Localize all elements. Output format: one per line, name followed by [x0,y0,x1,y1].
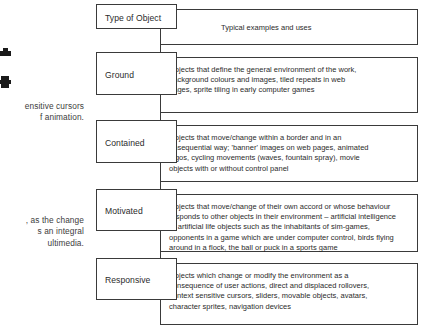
description-text-responsive: Objects which change or modify the envir… [169,271,369,312]
type-label-ground: Ground [105,70,134,80]
description-text-contained: Objects that move/change within a border… [169,133,369,174]
header-description-label: Typical examples and uses [221,23,312,33]
description-box-contained: Objects that move/change within a border… [160,125,418,182]
description-text-motivated: Objects that move/change of their own ac… [169,202,396,253]
type-box-responsive: Responsive [96,258,177,300]
object-type-table: Type of Object Typical examples and uses… [0,0,428,336]
description-box-motivated: Objects that move/change of their own ac… [160,194,418,252]
description-text-ground: Objects that define the general environm… [169,65,356,96]
type-label-responsive: Responsive [105,275,150,285]
description-box-ground: Objects that define the general environm… [160,57,418,113]
type-box-motivated: Motivated [96,189,177,231]
type-box-contained: Contained [96,120,177,163]
type-box-ground: Ground [96,52,177,95]
type-label-motivated: Motivated [105,206,143,216]
header-type-label: Type of Object [105,13,161,23]
description-box-responsive: Objects which change or modify the envir… [160,263,418,325]
type-label-contained: Contained [105,138,145,148]
header-description-box: Typical examples and uses [160,9,418,45]
header-type-box: Type of Object [96,4,177,29]
